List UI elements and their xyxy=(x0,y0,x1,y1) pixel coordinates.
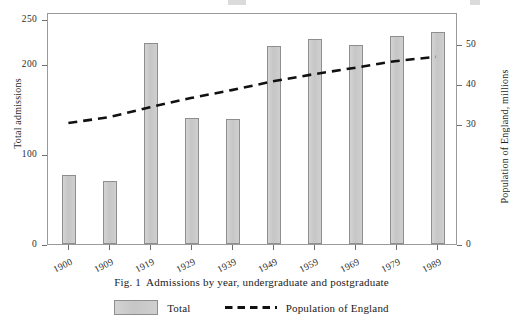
left-tick-250 xyxy=(42,20,47,21)
plot-area xyxy=(47,13,457,245)
x-tick-1959 xyxy=(314,245,315,250)
right-tick-40 xyxy=(457,85,462,86)
left-tick-0 xyxy=(42,245,47,246)
x-tick-1909 xyxy=(109,245,110,250)
figure-number: Fig. 1 xyxy=(114,276,141,288)
legend-dashed-line-icon xyxy=(225,306,277,309)
left-tick-label-200: 200 xyxy=(5,59,37,69)
legend-label-population: Population of England xyxy=(286,302,389,314)
population-polyline xyxy=(68,57,435,123)
figure-caption-text: Admissions by year, undergraduate and po… xyxy=(146,276,389,288)
legend-bar-swatch-icon xyxy=(114,300,158,315)
right-tick-label-40: 40 xyxy=(466,79,490,89)
right-tick-50 xyxy=(457,45,462,46)
right-tick-30 xyxy=(457,125,462,126)
x-tick-1969 xyxy=(355,245,356,250)
page-header-crop-left xyxy=(228,0,246,5)
x-tick-1919 xyxy=(150,245,151,250)
right-tick-0 xyxy=(457,245,462,246)
right-tick-label-0: 0 xyxy=(466,239,490,249)
legend-entry-total: Total xyxy=(114,300,190,315)
x-tick-1900 xyxy=(68,245,69,250)
x-tick-1939 xyxy=(232,245,233,250)
left-tick-label-0: 0 xyxy=(5,239,37,249)
left-tick-label-100: 100 xyxy=(5,149,37,159)
right-tick-label-50: 50 xyxy=(466,39,490,49)
page-header-crop-right xyxy=(470,0,480,5)
population-line xyxy=(48,14,456,244)
figure-caption: Fig. 1Admissions by year, undergraduate … xyxy=(0,276,503,288)
right-axis-title: Population of England, millions xyxy=(499,52,510,222)
x-tick-1979 xyxy=(396,245,397,250)
left-tick-100 xyxy=(42,155,47,156)
left-tick-200 xyxy=(42,65,47,66)
x-tick-1989 xyxy=(437,245,438,250)
x-tick-1949 xyxy=(273,245,274,250)
legend: Total Population of England xyxy=(0,300,503,315)
legend-entry-population: Population of England xyxy=(225,302,389,314)
left-tick-label-250: 250 xyxy=(5,14,37,24)
right-tick-label-30: 30 xyxy=(466,119,490,129)
x-tick-1929 xyxy=(191,245,192,250)
legend-label-total: Total xyxy=(167,302,190,314)
